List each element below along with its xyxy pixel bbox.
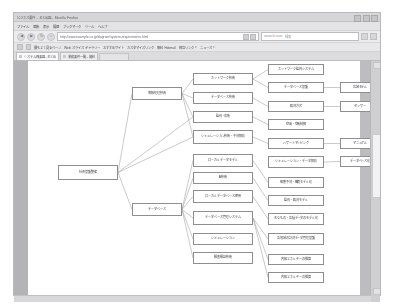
menu-history[interactable]: 履歴: [53, 24, 59, 29]
rss-icon[interactable]: [243, 34, 249, 40]
diagram-edge: [118, 137, 193, 173]
diagram-edge: [253, 218, 268, 278]
diagram-node-label: ネットワーク技術: [210, 77, 236, 81]
vertical-scrollbar[interactable]: [370, 61, 380, 302]
diagram-node: シミュレーション・データ解析: [268, 156, 324, 168]
diagram-node-label: 情報処理技術: [147, 92, 167, 96]
content-viewport: 社会基盤整備情報処理技術ネットワーク技術データベース技術監視・収集シミュレーショ…: [14, 61, 380, 302]
window-title: ビジネス要件 - まとめ図 - Mozilla Firefox: [14, 15, 78, 20]
menu-view[interactable]: 表示: [43, 24, 49, 29]
diagram-node-label: データベース化: [349, 160, 372, 164]
diagram-edge: [182, 161, 193, 210]
search-bar[interactable]: search-icon 検索: [261, 32, 359, 41]
diagram-edge: [324, 162, 340, 163]
menu-bar: ファイル 編集 表示 履歴 ブックマーク ツール ヘルプ: [14, 22, 380, 31]
diagram-node-label: データベース管理システム: [204, 216, 241, 220]
diagram-edge: [118, 117, 193, 173]
reload-button[interactable]: ↻: [37, 33, 45, 41]
diagram-edge: [182, 94, 193, 138]
close-button[interactable]: [371, 15, 378, 22]
forward-button[interactable]: ▶: [27, 33, 35, 41]
diagram-node-label: 監視・収集: [215, 115, 232, 119]
diagram-node-label: データベース技術: [210, 96, 236, 100]
bookmark-item-2[interactable]: 最もよく見るページ: [34, 45, 61, 50]
diagram-node-label: シミュレーション技術・予測解析: [200, 135, 246, 139]
bookmark-item-5[interactable]: カスタマイズ リンク: [127, 45, 155, 50]
minimize-button[interactable]: [354, 15, 361, 22]
diagram-edge: [253, 218, 268, 260]
diagram-node: ハザードマッピング: [268, 138, 324, 149]
diagram-node: 空間・空間制御: [268, 119, 324, 130]
bookmark-star-icon[interactable]: [250, 34, 256, 40]
downloads-icon[interactable]: [361, 33, 368, 40]
search-icon: search-icon: [264, 35, 283, 39]
address-bar[interactable]: http://www.example.co.jp/diagram/system-…: [57, 32, 259, 41]
diagram-node: 主なもの・各種データのモデル化: [268, 213, 324, 225]
reload-icon: ↻: [40, 35, 43, 39]
diagram-node-label: 検査検証技術: [213, 256, 233, 260]
bookmark-icon: [26, 44, 32, 50]
back-arrow-icon: ◀: [20, 35, 23, 39]
toolbar-end-buttons: [361, 33, 377, 40]
bookmark-item-4[interactable]: おすすめサイト: [103, 45, 124, 50]
diagram-node-label: 被害予測・構造モデル化: [279, 181, 313, 185]
tab-label: 業務要件一覧 - 資料: [68, 54, 95, 59]
diagram-node-label: 空間・空間制御: [285, 123, 308, 127]
menu-file[interactable]: ファイル: [17, 24, 29, 29]
maximize-button[interactable]: [363, 15, 370, 22]
scrollbar-thumb[interactable]: [372, 134, 380, 198]
new-tab-button[interactable]: [99, 53, 129, 60]
favicon: [19, 55, 22, 58]
bookmark-item-8[interactable]: ニュース ▾: [200, 45, 215, 50]
diagram-node-label: データベース基盤: [283, 86, 309, 90]
diagram-node-label: 内部エネルギーの推算: [280, 276, 312, 280]
menu-help[interactable]: ヘルプ: [98, 24, 107, 29]
diagram-node-label: データベース: [147, 208, 167, 212]
diagram-node: データベース技術: [193, 92, 253, 104]
diagram-node: シミュレーション技術・予測解析: [193, 130, 253, 144]
diagram-edge: [118, 94, 132, 173]
diagram-edge: [253, 218, 268, 239]
bookmark-item-7[interactable]: 相互リンク ▾: [179, 45, 197, 50]
diagram-edge: [253, 137, 268, 144]
menu-tools[interactable]: ツール: [85, 24, 94, 29]
forward-arrow-icon: ▶: [30, 35, 33, 39]
menu-bookmarks[interactable]: ブックマーク: [63, 24, 81, 29]
diagram-node: 検査検証技術: [193, 252, 253, 264]
diagram-node: 情報処理技術: [132, 87, 182, 100]
diagram-node-label: シミュレーション・データ解析: [274, 160, 317, 164]
tab-1[interactable]: 業務要件一覧 - 資料: [60, 52, 97, 60]
back-button[interactable]: ◀: [17, 33, 25, 41]
bookmark-label: 無料 Hotmail: [157, 45, 175, 50]
diagram-edge: [253, 161, 268, 183]
bookmark-label: カスタマイズ リンク: [127, 45, 155, 50]
bookmark-item-3[interactable]: Web スライス ギャラリー: [64, 45, 100, 50]
home-button[interactable]: ⌂: [47, 33, 55, 41]
bookmarks-toolbar: 最もよく見るページ Web スライス ギャラリー おすすめサイト カスタマイズ …: [14, 43, 380, 52]
scroll-down-button[interactable]: [373, 288, 381, 295]
diagram-node: 観測方式: [268, 101, 324, 112]
bookmark-item-0[interactable]: [17, 44, 23, 50]
horizontal-scrollbar[interactable]: [14, 295, 371, 302]
menu-icon[interactable]: [370, 33, 377, 40]
diagram-node-label: 各地域の計測データ管理基盤: [276, 237, 316, 241]
diagram-edge: [182, 79, 193, 94]
scroll-up-button[interactable]: [373, 62, 381, 69]
search-input[interactable]: 検索: [285, 34, 291, 39]
diagram-node-label: ハザードマッピング: [282, 142, 311, 146]
bookmark-item-6[interactable]: 無料 Hotmail: [157, 45, 175, 50]
diagram-node: データベース基盤: [268, 82, 324, 93]
diagram-edge: [182, 178, 193, 210]
bookmark-label: ニュース: [200, 45, 212, 50]
navigation-toolbar: ◀ ▶ ↻ ⌂ http://www.example.co.jp/diagram…: [14, 31, 380, 43]
diagram-node-label: センサー: [353, 105, 367, 109]
diagram-node: 内部エネルギーの推算: [268, 272, 324, 283]
diagram-node-label: 監視・観測モデル: [283, 199, 309, 203]
menu-edit[interactable]: 編集: [33, 24, 39, 29]
tab-0[interactable]: システム概要図 - まとめ: [16, 52, 59, 60]
diagram-edge: [253, 70, 268, 80]
title-bar: ビジネス要件 - まとめ図 - Mozilla Firefox: [14, 13, 380, 22]
diagram-node: 監視・収集: [193, 111, 253, 123]
bookmark-item-1[interactable]: [26, 44, 32, 50]
window-controls[interactable]: [354, 15, 378, 22]
